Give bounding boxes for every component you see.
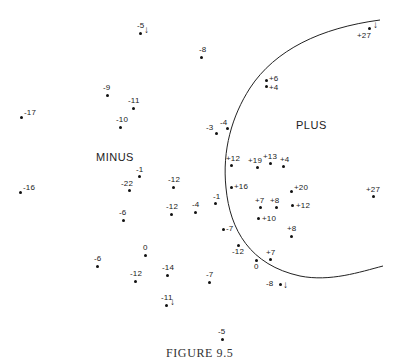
point-label: -14 [162,264,174,272]
boundary-curve-layer [0,0,397,363]
point-marker [128,189,131,192]
point-marker [132,107,135,110]
point-label: -1 [136,166,144,174]
point-marker [259,206,262,209]
point-label: +19 [248,157,262,165]
point-label: +8 [287,225,297,233]
point-marker [19,191,22,194]
point-marker [20,116,23,119]
point-marker [170,213,173,216]
point-label: -6 [94,255,102,263]
point-label: -6 [119,209,127,217]
point-label: +4 [280,156,290,164]
point-marker [215,132,218,135]
point-marker [221,338,224,341]
point-label: -12 [166,203,178,211]
point-label: -1 [213,193,221,201]
point-marker [256,166,259,169]
down-arrow-icon: ↓ [283,280,288,290]
point-label: -12 [130,270,142,278]
point-label: +12 [296,202,310,210]
point-label: -10 [116,116,128,124]
point-marker [208,281,211,284]
point-marker [372,195,375,198]
point-marker [222,228,225,231]
point-marker [290,235,293,238]
point-marker [172,186,175,189]
point-marker [138,175,141,178]
point-marker [265,85,268,88]
point-marker [291,204,294,207]
point-label: 0 [254,263,259,271]
point-label: +13 [263,153,277,161]
point-label: -11 [128,97,140,105]
minus-region-label: MINUS [96,151,134,163]
point-marker [265,79,268,82]
point-label: -12 [168,176,180,184]
point-label: -7 [226,225,234,233]
point-marker [166,274,169,277]
point-label: +10 [262,215,276,223]
point-label: +12 [226,155,240,163]
point-marker [279,283,282,286]
down-arrow-icon: ↓ [144,25,149,35]
point-label: +20 [294,184,308,192]
point-label: -9 [103,84,111,92]
point-marker [214,202,217,205]
point-label: -22 [121,180,133,188]
point-label: -4 [220,119,228,127]
figure-caption: FIGURE 9.5 [166,346,233,361]
point-label: +27 [357,32,371,40]
point-label: +7 [266,249,276,257]
point-marker [230,186,233,189]
point-label: +16 [234,183,248,191]
point-label: -8 [199,46,207,54]
point-marker [194,211,197,214]
point-marker [200,56,203,59]
point-marker [96,265,99,268]
point-label: -7 [206,271,214,279]
point-marker [257,217,260,220]
point-label: -16 [23,184,35,192]
point-label: -5 [218,328,226,336]
point-label: +4 [269,84,279,92]
down-arrow-icon: ↓ [373,20,378,30]
point-label: -4 [192,201,200,209]
boundary-curve [225,20,383,278]
point-label: -17 [24,109,36,117]
point-marker [144,254,147,257]
point-marker [119,126,122,129]
point-marker [122,219,125,222]
point-label: -8 [266,280,274,288]
point-marker [165,304,168,307]
point-marker [275,206,278,209]
point-marker [269,162,272,165]
plus-region-label: PLUS [296,119,327,131]
point-marker [269,258,272,261]
point-label: -12 [232,248,244,256]
point-marker [106,94,109,97]
point-label: 0 [143,244,148,252]
point-marker [230,164,233,167]
point-marker [290,190,293,193]
down-arrow-icon: ↓ [170,297,175,307]
point-marker [134,280,137,283]
point-label: +27 [366,186,380,194]
point-label: -3 [206,124,214,132]
point-label: +8 [270,197,280,205]
point-marker [282,165,285,168]
point-marker [139,32,142,35]
point-label: +7 [255,197,265,205]
point-marker [368,27,371,30]
point-label: +6 [269,75,279,83]
